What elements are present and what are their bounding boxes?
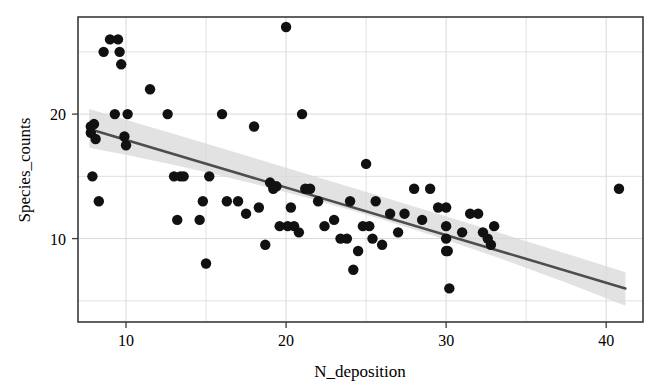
data-point [94,196,104,206]
data-point [367,233,377,243]
data-point [162,109,172,119]
data-point [348,265,358,275]
x-axis-ticks: 10203040 [118,322,614,349]
data-point [486,240,496,250]
x-tick-label: 20 [278,332,294,349]
data-point [241,208,251,218]
data-point [319,221,329,231]
data-point [441,233,451,243]
scatter-plot: 10203040 1020 N_deposition Species_count… [0,0,660,389]
data-point [178,171,188,181]
data-point [305,184,315,194]
data-point [281,22,291,32]
data-point [222,196,232,206]
data-point [393,227,403,237]
data-point [110,109,120,119]
data-point [377,240,387,250]
data-point [87,171,97,181]
data-point [217,109,227,119]
data-point [98,47,108,57]
data-point [113,34,123,44]
data-point [364,221,374,231]
data-point [399,208,409,218]
data-point [443,246,453,256]
data-point [119,131,129,141]
data-point [297,109,307,119]
data-point [194,215,204,225]
data-point [145,84,155,94]
y-axis-ticks: 1020 [50,106,78,247]
data-point [457,227,467,237]
y-axis-title: Species_counts [15,118,34,223]
data-point [489,221,499,231]
data-point [473,208,483,218]
data-point [198,196,208,206]
data-point [172,215,182,225]
data-point [249,121,259,131]
x-axis-title: N_deposition [314,362,406,381]
data-point [233,196,243,206]
x-tick-label: 30 [438,332,454,349]
x-tick-label: 10 [118,332,134,349]
data-point [204,171,214,181]
chart-page: 10203040 1020 N_deposition Species_count… [0,0,660,389]
data-point [89,119,99,129]
data-point [409,184,419,194]
data-point [122,109,132,119]
y-tick-label: 20 [50,106,66,123]
data-point [329,215,339,225]
data-point [353,246,363,256]
data-point [417,215,427,225]
data-point [201,258,211,268]
data-point [313,196,323,206]
data-point [444,283,454,293]
data-point [271,181,281,191]
data-point [614,184,624,194]
data-point [116,59,126,69]
data-point [425,184,435,194]
data-point [114,47,124,57]
x-tick-label: 40 [598,332,614,349]
data-point [286,202,296,212]
data-point [345,196,355,206]
data-point [342,233,352,243]
data-point [371,196,381,206]
data-point [385,208,395,218]
data-point [121,140,131,150]
data-point [90,134,100,144]
data-point [254,202,264,212]
data-point [294,227,304,237]
data-point [441,202,451,212]
data-point [441,221,451,231]
y-tick-label: 10 [50,231,66,248]
data-point [361,159,371,169]
data-point [260,240,270,250]
